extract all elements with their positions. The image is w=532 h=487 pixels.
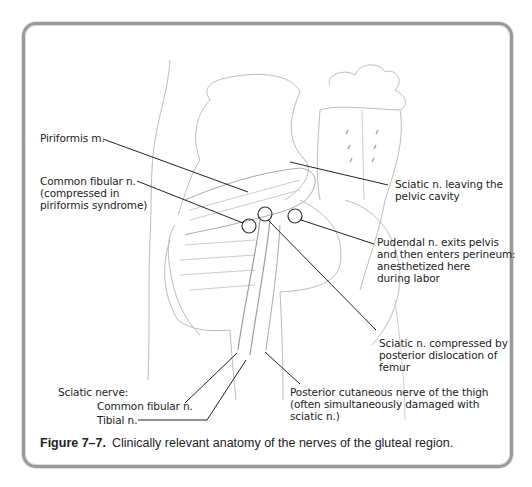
label-sciatic-compressed: Sciatic n. compressed by posterior dislo… [379,337,508,373]
figure-caption-text: Clinically relevant anatomy of the nerve… [112,436,453,450]
figure-caption: Figure 7–7.Clinically relevant anatomy o… [40,436,453,450]
figure-number: Figure 7–7. [40,436,106,450]
label-sciatic-leaving: Sciatic n. leaving the pelvic cavity [395,178,503,202]
common-fibular-leader-line [185,353,237,403]
sciatic-compressed-leader-line [268,220,376,330]
label-piriformis: Piriformis m. [40,132,105,144]
label-common-fibular: Common fibular n. [97,400,193,412]
common-fibular-compressed-leader-line [137,181,243,223]
label-tibial: Tibial n. [97,414,137,426]
common-fibular-marker [242,219,256,233]
pudendal-leader-line [301,220,374,244]
label-pudendal: Pudendal n. exits pelvis and then enters… [377,236,516,284]
sciatic-marker [258,207,272,221]
pudendal-marker [288,209,302,223]
label-common-fibular-compressed: Common fibular n. (compressed in pirifor… [40,175,147,211]
label-posterior-cutaneous: Posterior cutaneous nerve of the thigh (… [290,386,488,422]
label-sciatic-nerve-heading: Sciatic nerve: [58,386,128,398]
